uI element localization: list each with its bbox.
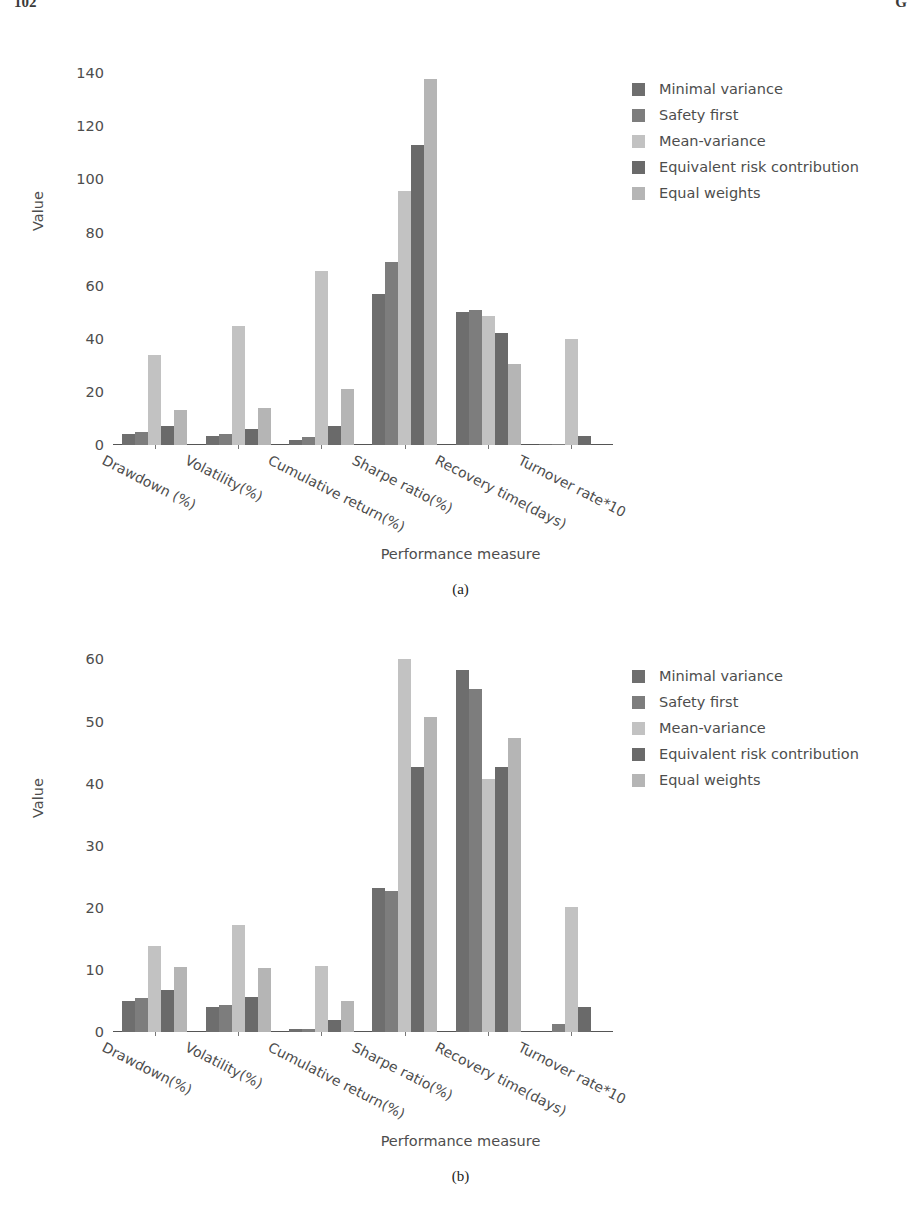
- bar: [398, 191, 411, 445]
- y-axis-tick-label: 40: [86, 332, 104, 347]
- legend-swatch-icon: [632, 187, 645, 200]
- legend-swatch-icon: [632, 696, 645, 709]
- x-axis-tick-label: Recovery time(days): [433, 1039, 569, 1119]
- legend-item[interactable]: Minimal variance: [632, 76, 859, 102]
- legend-item[interactable]: Equal weights: [632, 180, 859, 206]
- bar: [385, 891, 398, 1032]
- x-axis-tick-mark: [405, 1032, 406, 1036]
- bar: [315, 966, 328, 1032]
- bar: [495, 767, 508, 1032]
- x-axis-tick-mark: [488, 445, 489, 449]
- x-axis-tick-label: Drawdown (%): [99, 452, 198, 513]
- bar: [289, 1029, 302, 1032]
- x-axis-tick-mark: [238, 1032, 239, 1036]
- bar: [206, 1007, 219, 1032]
- bar: [219, 1005, 232, 1032]
- legend-item-label: Equivalent risk contribution: [659, 159, 859, 175]
- bar: [552, 444, 565, 445]
- legend-item[interactable]: Equivalent risk contribution: [632, 154, 859, 180]
- bar: [135, 998, 148, 1032]
- bar: [232, 326, 245, 445]
- bar: [482, 316, 495, 445]
- legend-swatch-icon: [632, 670, 645, 683]
- legend-item[interactable]: Safety first: [632, 689, 859, 715]
- y-axis-tick-label: 10: [86, 963, 104, 978]
- figure-b-caption: (b): [0, 1168, 921, 1185]
- bar: [245, 429, 258, 445]
- bar: [495, 333, 508, 445]
- bar: [258, 968, 271, 1032]
- x-axis-tick-mark: [155, 1032, 156, 1036]
- bar: [174, 410, 187, 445]
- y-axis-tick-label: 20: [86, 901, 104, 916]
- bar: [302, 1029, 315, 1032]
- bar: [508, 738, 521, 1032]
- x-axis-tick-label: Cumulative return(%): [266, 1039, 408, 1122]
- x-axis-tick-label: Cumulative return(%): [266, 452, 408, 535]
- bar: [206, 436, 219, 445]
- chart-b-plot-area: 0102030405060Drawdown(%)Volatility(%)Cum…: [113, 647, 613, 1032]
- legend-item-label: Minimal variance: [659, 668, 783, 684]
- x-axis-tick-mark: [321, 445, 322, 449]
- legend-item[interactable]: Mean-variance: [632, 715, 859, 741]
- bar-group: [122, 647, 187, 1032]
- bar: [232, 925, 245, 1032]
- x-axis-tick-mark: [238, 445, 239, 449]
- bar-group: [289, 60, 354, 445]
- legend-item-label: Minimal variance: [659, 81, 783, 97]
- legend-item[interactable]: Equal weights: [632, 767, 859, 793]
- bar: [174, 967, 187, 1032]
- bar: [135, 432, 148, 445]
- x-axis-tick-mark: [405, 445, 406, 449]
- bar: [219, 434, 232, 445]
- y-axis-tick-label: 40: [86, 776, 104, 791]
- y-axis-tick-label: 60: [86, 278, 104, 293]
- bar: [148, 355, 161, 445]
- x-axis-tick-mark: [155, 445, 156, 449]
- legend-swatch-icon: [632, 774, 645, 787]
- bar: [161, 426, 174, 445]
- bar: [565, 907, 578, 1032]
- bar: [328, 426, 341, 445]
- legend-item-label: Mean-variance: [659, 720, 766, 736]
- bar: [372, 888, 385, 1032]
- x-axis-tick-label: Volatility(%): [183, 1039, 266, 1092]
- bar: [578, 436, 591, 445]
- legend-swatch-icon: [632, 135, 645, 148]
- bar: [398, 659, 411, 1032]
- page-number-left: 102: [14, 0, 37, 11]
- legend-item[interactable]: Equivalent risk contribution: [632, 741, 859, 767]
- legend-item-label: Equivalent risk contribution: [659, 746, 859, 762]
- bar: [424, 717, 437, 1032]
- chart-b-y-axis-title: Value: [30, 778, 46, 818]
- bar: [341, 389, 354, 445]
- bar: [258, 408, 271, 445]
- legend-swatch-icon: [632, 722, 645, 735]
- bar: [552, 1024, 565, 1032]
- bar-group: [456, 60, 521, 445]
- bar-group: [456, 647, 521, 1032]
- y-axis-tick-label: 20: [86, 385, 104, 400]
- legend-item[interactable]: Safety first: [632, 102, 859, 128]
- y-axis-tick-label: 0: [95, 438, 104, 453]
- chart-a-y-axis-title: Value: [30, 191, 46, 231]
- x-axis-tick-mark: [321, 1032, 322, 1036]
- legend-item[interactable]: Mean-variance: [632, 128, 859, 154]
- bar: [469, 689, 482, 1032]
- bar: [578, 1007, 591, 1032]
- x-axis-tick-mark: [488, 1032, 489, 1036]
- bar: [161, 990, 174, 1032]
- legend-swatch-icon: [632, 161, 645, 174]
- bar-group: [206, 647, 271, 1032]
- bar-group: [122, 60, 187, 445]
- bar: [302, 437, 315, 445]
- bar-group: [289, 647, 354, 1032]
- bar: [385, 262, 398, 445]
- legend-item[interactable]: Minimal variance: [632, 663, 859, 689]
- bar: [456, 312, 469, 445]
- bar: [456, 670, 469, 1032]
- bar: [122, 1001, 135, 1032]
- bar: [411, 767, 424, 1032]
- bar-group: [539, 60, 604, 445]
- figure-a: Value 020406080100120140Drawdown (%)Vola…: [0, 18, 921, 598]
